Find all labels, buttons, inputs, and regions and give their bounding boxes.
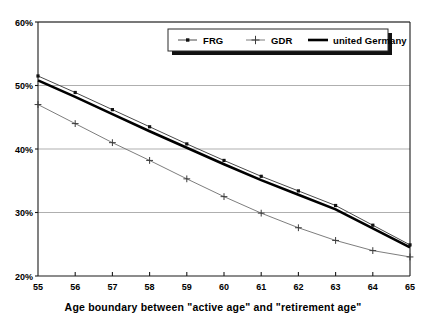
x-tick-label-60: 60 <box>219 282 229 292</box>
data-point-frg-61 <box>260 175 263 178</box>
x-tick-label-56: 56 <box>70 282 80 292</box>
series-layer <box>35 74 414 260</box>
x-tick-label-65: 65 <box>405 282 415 292</box>
data-point-frg-62 <box>297 189 300 192</box>
data-point-frg-58 <box>148 125 151 128</box>
data-point-gdr-58 <box>146 157 153 164</box>
data-point-frg-59 <box>185 142 188 145</box>
chart-container: 20%30%40%50%60% 5556575859606162636465 F… <box>0 0 427 328</box>
series-line-gdr <box>38 105 410 257</box>
y-tick-label-60: 60% <box>15 18 33 28</box>
legend-marker-square-icon <box>186 38 189 41</box>
x-tick-label-57: 57 <box>107 282 117 292</box>
y-tick-label-20: 20% <box>15 272 33 282</box>
data-point-gdr-64 <box>369 247 376 254</box>
series-line-united-germany <box>38 80 410 247</box>
data-point-frg-64 <box>371 224 374 227</box>
y-tick-label-40: 40% <box>15 145 33 155</box>
x-axis-title: Age boundary between "active age" and "r… <box>65 301 362 313</box>
data-point-gdr-57 <box>109 139 116 146</box>
data-point-gdr-61 <box>258 210 265 217</box>
data-point-frg-63 <box>334 204 337 207</box>
y-tick-label-30: 30% <box>15 208 33 218</box>
data-point-gdr-55 <box>35 101 42 108</box>
data-point-gdr-56 <box>72 120 79 127</box>
data-point-frg-60 <box>222 159 225 162</box>
y-tick-label-50: 50% <box>15 81 33 91</box>
data-point-gdr-65 <box>407 254 414 261</box>
data-point-frg-55 <box>36 74 39 77</box>
x-tick-label-62: 62 <box>293 282 303 292</box>
data-point-frg-56 <box>74 91 77 94</box>
x-tick-label-58: 58 <box>145 282 155 292</box>
data-point-gdr-62 <box>295 224 302 231</box>
legend-label-united-germany: united Germany <box>333 35 407 46</box>
legend[interactable]: FRGGDRunited Germany <box>168 29 407 55</box>
data-point-frg-65 <box>408 243 411 246</box>
line-chart: 20%30%40%50%60% 5556575859606162636465 F… <box>0 0 427 328</box>
x-axis-tick-marks <box>75 272 373 276</box>
x-tick-label-63: 63 <box>331 282 341 292</box>
x-axis-tick-labels: 5556575859606162636465 <box>33 282 415 292</box>
x-tick-label-61: 61 <box>256 282 266 292</box>
data-point-gdr-60 <box>221 193 228 200</box>
x-tick-label-55: 55 <box>33 282 43 292</box>
data-point-gdr-63 <box>332 237 339 244</box>
data-point-frg-57 <box>111 108 114 111</box>
x-tick-label-59: 59 <box>182 282 192 292</box>
x-tick-label-64: 64 <box>368 282 378 292</box>
y-axis-tick-labels: 20%30%40%50%60% <box>15 18 38 282</box>
legend-label-gdr: GDR <box>271 35 292 46</box>
data-point-gdr-59 <box>183 175 190 182</box>
legend-label-frg: FRG <box>203 35 223 46</box>
